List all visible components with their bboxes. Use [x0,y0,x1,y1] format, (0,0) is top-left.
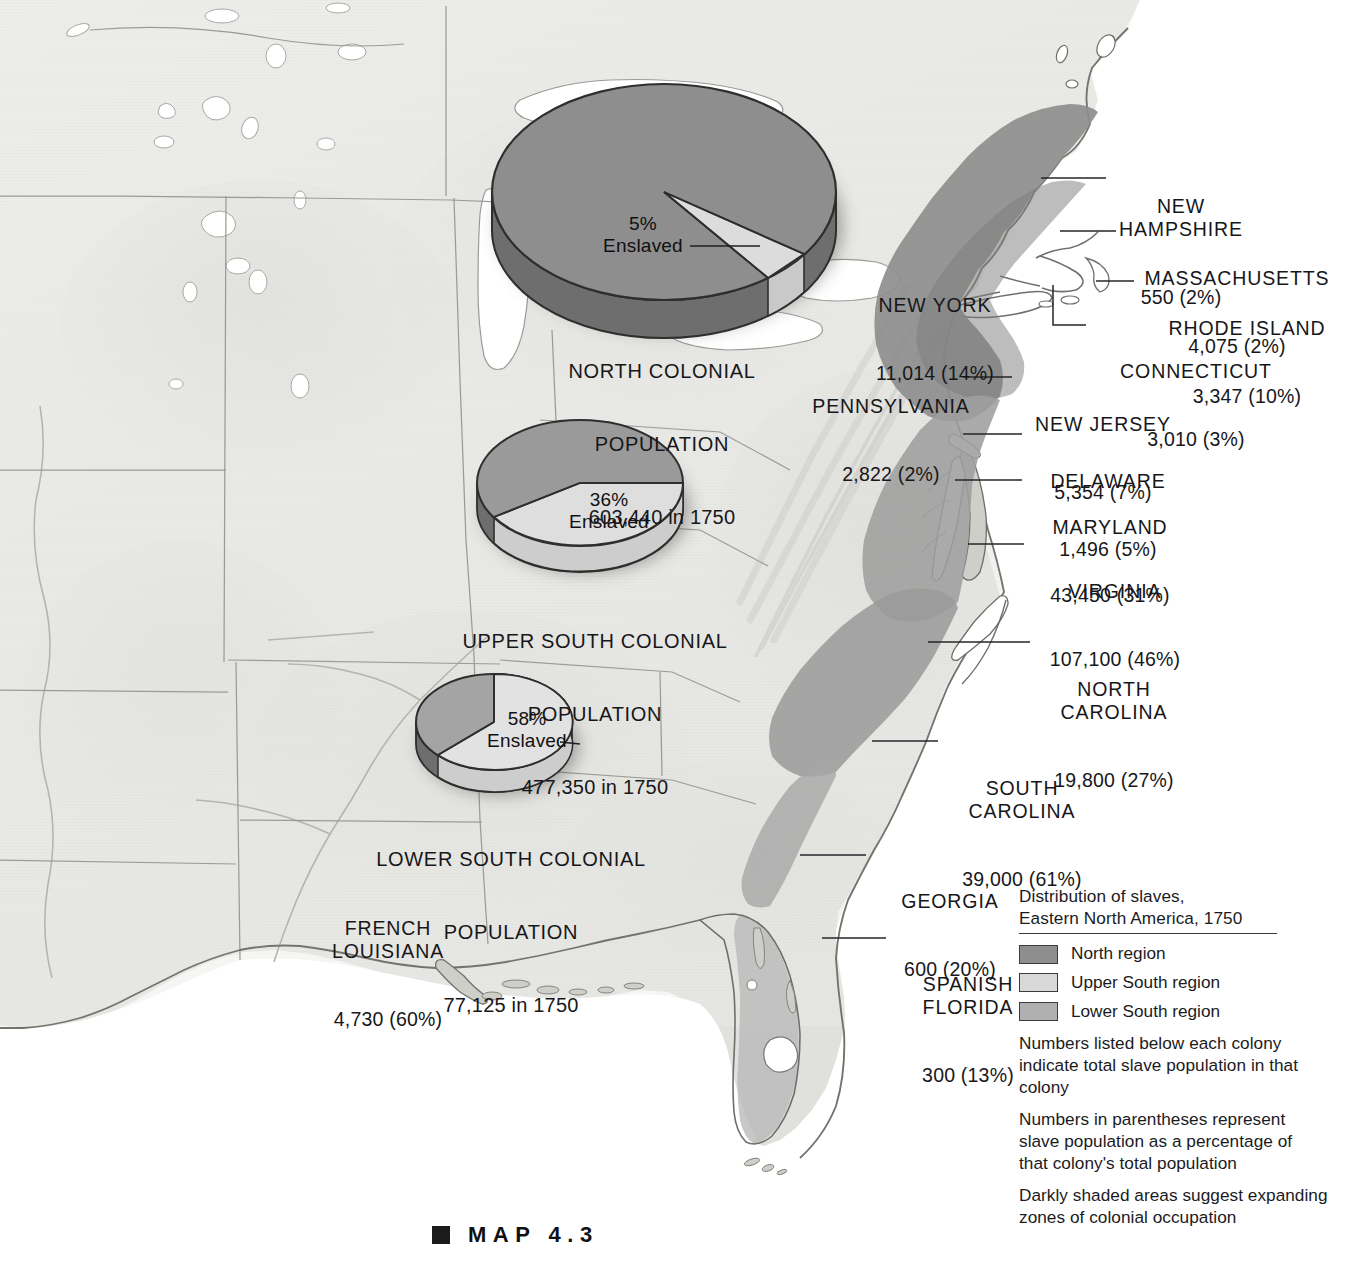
legend-note-totals: Numbers listed below each colony indicat… [1019,1033,1349,1098]
pie-north-inner-label: 5% Enslaved [568,213,718,257]
colony-stat-pennsylvania: 2,822 (2%) [786,463,996,486]
legend: Distribution of slaves, Eastern North Am… [1019,886,1349,1229]
pie-north-caption: NORTH COLONIAL POPULATION 603,440 in 175… [502,310,822,578]
pie-north-caption-line2: POPULATION [502,432,822,456]
colony-label-french-louisiana: FRENCH LOUISIANA 4,730 (60%) [290,872,486,1075]
colony-name-north-carolina: NORTH CAROLINA [1024,678,1204,723]
legend-label-north: North region [1071,943,1166,965]
legend-title-line1: Distribution of slaves, [1019,886,1349,908]
pie-north-caption-line1: NORTH COLONIAL [502,359,822,383]
legend-swatch-lower-south-icon [1019,1002,1058,1021]
legend-label-upper-south: Upper South region [1071,972,1220,994]
legend-divider [1019,933,1277,934]
pie-upper-south-caption-line1: UPPER SOUTH COLONIAL [420,629,770,653]
legend-swatch-north-icon [1019,945,1058,964]
square-marker-icon [432,1226,450,1244]
colony-stat-french-louisiana: 4,730 (60%) [290,1008,486,1031]
pie-north-graphic [492,84,836,338]
colony-name-french-louisiana: FRENCH LOUISIANA [290,917,486,962]
colony-name-georgia: GEORGIA [862,890,1038,913]
legend-row-lower-south: Lower South region [1019,1001,1349,1023]
pie-upper-south-inner-label: 36% Enslaved [534,489,684,533]
pie-lower-south-caption-line1: LOWER SOUTH COLONIAL [336,847,686,871]
legend-title-line2: Eastern North America, 1750 [1019,908,1349,930]
map-caption: MAP 4.3 [432,1222,599,1248]
colony-name-pennsylvania: PENNSYLVANIA [786,395,996,418]
colony-name-south-carolina: SOUTH CAROLINA [932,777,1112,822]
colony-name-new-york: NEW YORK [845,294,1025,317]
colony-name-virginia: VIRGINIA [1020,580,1210,603]
pie-lower-south-inner-label: 58% Enslaved [452,708,602,752]
legend-note-percentages: Numbers in parentheses represent slave p… [1019,1109,1349,1174]
legend-row-north: North region [1019,943,1349,965]
pie-upper-south-caption-line3: 477,350 in 1750 [420,775,770,799]
map-caption-text: MAP 4.3 [468,1222,599,1248]
legend-note-shading: Darkly shaded areas suggest expanding zo… [1019,1185,1349,1228]
legend-swatch-upper-south-icon [1019,973,1058,992]
legend-title: Distribution of slaves, Eastern North Am… [1019,886,1349,933]
map-page: 5% Enslaved NORTH COLONIAL POPULATION 60… [0,0,1368,1267]
legend-row-upper-south: Upper South region [1019,972,1349,994]
colony-label-pennsylvania: PENNSYLVANIA 2,822 (2%) [786,350,996,531]
legend-label-lower-south: Lower South region [1071,1001,1220,1023]
